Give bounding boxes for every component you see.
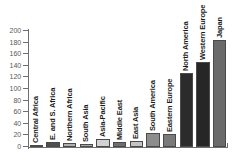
bar-group: Japan — [213, 31, 226, 147]
bar — [113, 142, 126, 147]
bar-category-label: East Asia — [132, 106, 140, 138]
bar-group: South America — [146, 31, 159, 147]
bar — [180, 73, 193, 147]
y-axis-tick-label: 120 — [10, 72, 21, 81]
bar — [213, 40, 226, 147]
y-axis-tick-label: 200 — [10, 26, 21, 35]
y-axis-tick-label: 160 — [10, 49, 21, 58]
y-axis-tick-label: 100 — [10, 84, 21, 93]
bar-category-label: E. and S. Africa — [49, 88, 57, 140]
y-axis-tick: 80 — [0, 96, 28, 105]
bar-group: Eastern Europe — [163, 31, 176, 147]
bar — [30, 145, 43, 147]
bar — [63, 143, 76, 147]
y-axis-tick-label: 40 — [13, 119, 21, 128]
y-axis-tick: 120 — [0, 72, 28, 81]
bar-category-label: Asia-Pacific — [99, 96, 107, 137]
bar — [163, 134, 176, 147]
bar-group: Northern Africa — [63, 31, 76, 147]
bar-group: Middle East — [113, 31, 126, 147]
bar-category-label: Western Europe — [199, 5, 207, 60]
bar-group: East Asia — [130, 31, 143, 147]
bar-category-label: South Asia — [82, 105, 90, 142]
y-axis-tick-label: 60 — [13, 107, 21, 116]
bar-group: E. and S. Africa — [46, 31, 59, 147]
bar — [130, 141, 143, 147]
bar-category-label: South America — [149, 80, 157, 131]
bar — [196, 62, 209, 147]
bar — [146, 133, 159, 148]
bar-category-label: Middle East — [116, 100, 124, 140]
bar-chart: 200180160140120100806040200 Central Afri… — [0, 0, 235, 163]
bar-group: Asia-Pacific — [96, 31, 109, 147]
y-axis-tick-label: 140 — [10, 61, 21, 70]
bar-group: South Asia — [80, 31, 93, 147]
y-axis-tick: 140 — [0, 61, 28, 70]
y-axis-tick: 60 — [0, 107, 28, 116]
plot-area: Central AfricaE. and S. AfricaNorthern A… — [28, 31, 228, 147]
y-axis-tick: 180 — [0, 38, 28, 47]
bar — [46, 142, 59, 147]
bar-category-label: Central Africa — [32, 96, 40, 143]
bar-category-label: Japan — [216, 17, 224, 38]
bar — [80, 144, 93, 147]
y-axis-tick: 100 — [0, 84, 28, 93]
bar-category-label: Eastern Europe — [166, 79, 174, 132]
bar-category-label: Northern Africa — [66, 88, 74, 140]
y-axis-tick-label: 20 — [13, 130, 21, 139]
y-axis-tick: 0 — [0, 142, 28, 151]
y-axis-tick: 40 — [0, 119, 28, 128]
y-axis-tick-label: 80 — [13, 96, 21, 105]
bar-group: Central Africa — [30, 31, 43, 147]
y-axis-tick-label: 180 — [10, 38, 21, 47]
bar-category-label: North America — [182, 21, 190, 70]
bar — [96, 139, 109, 147]
y-axis-tick: 200 — [0, 26, 28, 35]
y-axis-tick: 160 — [0, 49, 28, 58]
y-axis-tick: 20 — [0, 130, 28, 139]
bar-group: Western Europe — [196, 31, 209, 147]
bar-group: North America — [180, 31, 193, 147]
y-axis-tick-label: 0 — [17, 142, 21, 151]
x-axis-line — [28, 147, 228, 148]
